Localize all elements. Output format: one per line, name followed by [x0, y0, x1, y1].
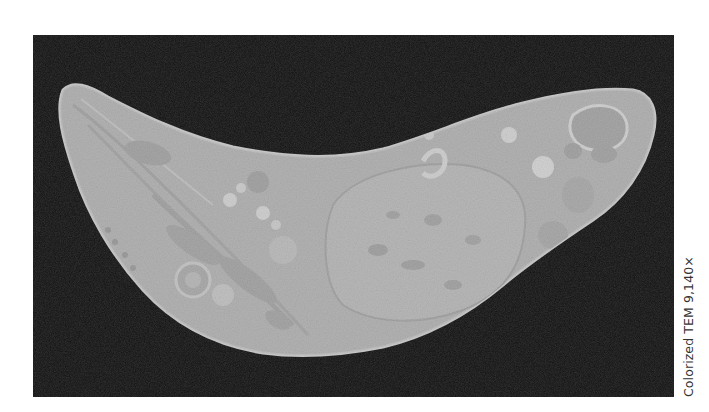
cell-image	[33, 35, 674, 397]
micrograph-panel	[33, 35, 674, 397]
magnification-caption: Colorized TEM 9,140×	[681, 256, 696, 397]
